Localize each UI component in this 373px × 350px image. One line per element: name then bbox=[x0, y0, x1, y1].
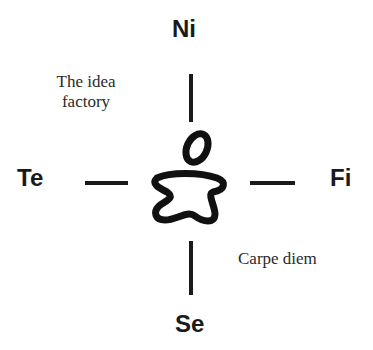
axis-line-right bbox=[250, 181, 295, 185]
axis-line-bottom bbox=[189, 241, 193, 295]
annotation-line-1: The idea bbox=[36, 72, 136, 92]
annotation-line-2: factory bbox=[36, 92, 136, 112]
annotation-carpe-diem: Carpe diem bbox=[238, 249, 317, 269]
label-se: Se bbox=[175, 312, 204, 336]
label-ni: Ni bbox=[172, 17, 196, 41]
label-fi: Fi bbox=[330, 166, 351, 190]
axis-line-left bbox=[85, 181, 128, 185]
axis-line-top bbox=[189, 74, 193, 122]
annotation-idea-factory: The idea factory bbox=[36, 72, 136, 112]
person-figure-icon bbox=[145, 128, 235, 228]
label-te: Te bbox=[17, 166, 43, 190]
